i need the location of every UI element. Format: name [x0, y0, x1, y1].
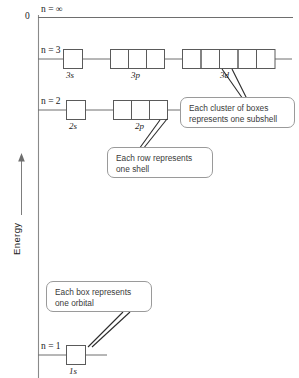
subshell-label-3p: 3p [131, 71, 140, 80]
orbital-callout-line2: one orbital [55, 298, 94, 309]
subshell-3p-boxes [111, 50, 165, 69]
subshell-callout-line1: Each cluster of boxes [189, 103, 268, 114]
energy-axis-title: Energy [11, 222, 22, 255]
diagram-canvas [0, 0, 299, 378]
shell-callout-line2: one shell [116, 164, 149, 175]
level-label-n-3: n = 3 [41, 46, 61, 56]
subshell-label-2p: 2p [135, 122, 144, 131]
level-label-n-2: n = 2 [41, 97, 61, 107]
subshell-2s-boxes [67, 101, 86, 120]
leader-lines-orbital-callout [88, 312, 130, 347]
axis-zero-label: 0 [25, 12, 30, 22]
level-label-n-infinity: n = ∞ [41, 5, 63, 15]
subshell-3d-boxes [183, 50, 276, 69]
energy-level-diagram: 0 n = ∞ n = 3 n = 2 n = 1 3s 3p 3d 2s 2p… [0, 0, 299, 378]
subshell-label-2s: 2s [69, 122, 77, 131]
subshell-2p-boxes [114, 101, 168, 120]
subshell-3s-boxes [64, 50, 83, 69]
shell-callout-line1: Each row represents [116, 153, 192, 164]
subshell-1s-boxes [67, 346, 86, 365]
energy-arrow [18, 153, 25, 215]
subshell-label-1s: 1s [69, 367, 77, 376]
level-label-n-1: n = 1 [41, 342, 61, 352]
subshell-label-3d: 3d [220, 71, 229, 80]
orbital-callout-line1: Each box represents [55, 287, 131, 298]
subshell-label-3s: 3s [66, 71, 74, 80]
subshell-callout-line2: represents one subshell [189, 114, 277, 125]
